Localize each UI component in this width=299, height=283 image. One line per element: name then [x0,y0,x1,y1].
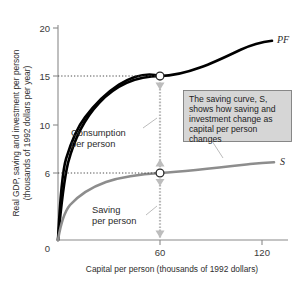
arrow-head-up-consumption [156,83,165,91]
arrow-head-down-consumption [156,159,165,167]
y-tick-label-0: 0 [45,243,50,254]
y-tick-label-10: 10 [39,120,50,131]
chart-figure: 20 15 10 6 0 60 120 Capital per person (… [0,0,299,283]
arrow-head-down-saving [156,231,165,239]
y-tick-labels: 20 15 10 6 0 [39,23,50,255]
callout-line-1: The saving curve, S, [189,94,267,104]
y-tick-label-6: 6 [45,168,50,179]
consumption-label-line2: per person [71,139,115,149]
x-tick-label-120: 120 [254,247,270,258]
callout-line-3: investment change as [189,114,273,124]
saving-label-line2: per person [92,216,136,226]
callout-line-4: capital per person [189,124,258,134]
y-tick-marks [53,28,58,173]
curve-s [58,162,274,240]
saving-annotation: Saving per person [92,205,157,226]
marker-s-point [156,169,164,177]
chart-canvas: 20 15 10 6 0 60 120 Capital per person (… [0,0,299,283]
y-tick-label-15: 15 [39,71,50,82]
y-axis-title-line1: Real GDP, saving and investment per pers… [11,49,21,216]
consumption-label-line1: Consumption [71,128,126,138]
curve-label-s: S [280,156,285,167]
saving-leader-line [146,206,157,215]
x-tick-marks [160,240,262,245]
x-tick-label-60: 60 [155,247,166,258]
saving-curve-callout: The saving curve, S, shows how saving an… [184,91,292,159]
curve-label-pf: PF [276,34,290,45]
consumption-leader-line [143,118,157,128]
saving-label-line1: Saving [92,205,120,215]
arrow-head-up-saving [156,179,165,186]
y-tick-label-20: 20 [39,23,50,34]
x-tick-labels: 60 120 [155,247,270,258]
y-axis-title-line2: (thousands of 1992 dollars per year) [22,66,32,201]
callout-line-2: shows how saving and [189,104,276,114]
callout-line-5: changes [189,134,222,144]
marker-pf-point [156,72,164,80]
x-axis-title: Capital per person (thousands of 1992 do… [86,264,258,274]
